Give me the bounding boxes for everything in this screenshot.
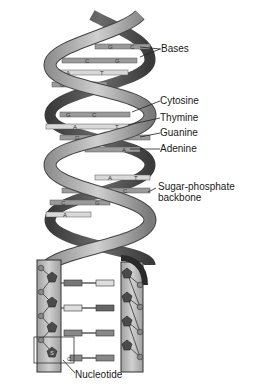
svg-text:G: G bbox=[108, 44, 113, 50]
label-nucleotide: Nucleotide bbox=[75, 369, 122, 380]
label-bases: Bases bbox=[161, 43, 189, 54]
svg-text:G: G bbox=[66, 112, 71, 118]
label-thymine: Thymine bbox=[160, 112, 198, 123]
svg-text:G: G bbox=[95, 200, 100, 206]
dna-helix-diagram: GC CG AT GC GC AT GG A AT GC CG A bbox=[0, 0, 260, 387]
svg-text:C: C bbox=[61, 200, 66, 206]
svg-text:A: A bbox=[108, 175, 112, 181]
svg-text:T: T bbox=[134, 175, 138, 181]
svg-text:T: T bbox=[100, 70, 104, 76]
svg-text:G: G bbox=[115, 58, 120, 64]
svg-text:A: A bbox=[63, 212, 67, 218]
svg-text:C: C bbox=[130, 44, 135, 50]
ladder-section: S C bbox=[34, 258, 145, 372]
label-cytosine: Cytosine bbox=[160, 95, 199, 106]
svg-text:C: C bbox=[67, 356, 72, 362]
svg-text:C: C bbox=[85, 58, 90, 64]
label-guanine: Guanine bbox=[160, 127, 198, 138]
svg-text:C: C bbox=[92, 112, 97, 118]
svg-text:A: A bbox=[122, 147, 126, 153]
svg-text:S: S bbox=[50, 350, 54, 356]
label-backbone-line1: Sugar-phosphate bbox=[158, 181, 235, 192]
svg-text:C: C bbox=[123, 188, 128, 194]
label-adenine: Adenine bbox=[160, 143, 197, 154]
svg-text:A: A bbox=[73, 124, 77, 130]
label-backbone-line2: backbone bbox=[158, 192, 201, 203]
